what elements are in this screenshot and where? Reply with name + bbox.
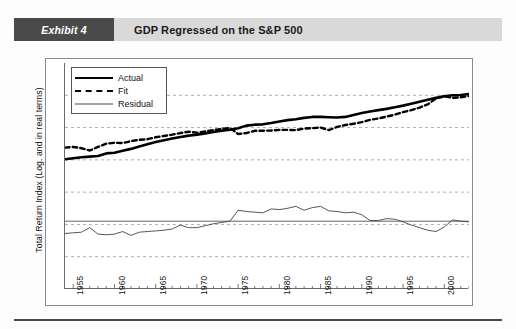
legend-label-actual: Actual [118,73,143,83]
legend-item-actual: Actual [75,71,162,84]
legend-label-fit: Fit [118,86,128,96]
legend-label-residual: Residual [118,99,153,109]
x-tick-label: 1975 [240,276,250,295]
legend-swatch-fit-icon [75,86,113,96]
legend-swatch-actual-icon [75,73,113,83]
x-axis-tick-labels: 1955196019651970197519801985199019952000 [64,293,468,329]
x-tick-label: 1990 [364,276,374,295]
chart-legend: Actual Fit Residual [71,67,167,114]
plot-area: Actual Fit Residual [64,63,468,289]
legend-swatch-residual-icon [75,99,113,109]
x-tick-label: 1955 [75,276,85,295]
y-axis-title: Total Return Index (Log. and in real ter… [34,5,44,329]
x-tick-label: 1985 [323,276,333,295]
exhibit-title: GDP Regressed on the S&P 500 [114,18,502,41]
x-tick-label: 1965 [158,276,168,295]
chart-frame: Total Return Index (Log. and in real ter… [45,58,473,306]
legend-item-residual: Residual [75,97,162,110]
exhibit-header: Exhibit 4 GDP Regressed on the S&P 500 [14,18,502,41]
footer-rule [14,319,502,321]
x-tick-label: 1995 [405,276,415,295]
legend-item-fit: Fit [75,84,162,97]
page-root: Exhibit 4 GDP Regressed on the S&P 500 T… [0,0,516,329]
exhibit-number-tag: Exhibit 4 [14,18,114,41]
x-tick-label: 2000 [446,276,456,295]
x-tick-label: 1980 [282,276,292,295]
x-tick-label: 1960 [117,276,127,295]
x-tick-label: 1970 [199,276,209,295]
